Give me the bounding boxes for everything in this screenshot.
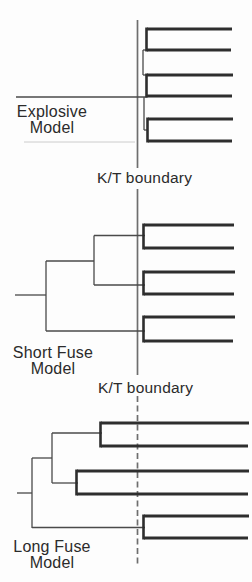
short-fuse-model-label-line2: Model <box>1 361 105 377</box>
long-fuse-model-label: Long Fuse Model <box>0 539 104 571</box>
kt-boundary-label-upper: K/T boundary <box>92 170 197 185</box>
long-fuse-model-label-line2: Model <box>0 555 104 571</box>
short-fuse-model-label: Short Fuse Model <box>1 345 105 377</box>
kt-boundary-label-lower: K/T boundary <box>93 380 198 395</box>
short-fuse-model-tree <box>15 224 235 343</box>
long-fuse-model-label-line1: Long Fuse <box>0 539 104 555</box>
cladogram-canvas <box>0 0 252 582</box>
long-fuse-model-tree <box>17 422 249 540</box>
short-fuse-model-label-line1: Short Fuse <box>1 345 105 361</box>
explosive-model-label-line1: Explosive <box>0 104 104 120</box>
kt-models-figure: Explosive Model K/T boundary Short Fuse … <box>0 0 252 582</box>
explosive-model-label: Explosive Model <box>0 104 104 136</box>
explosive-model-label-line2: Model <box>0 120 104 136</box>
